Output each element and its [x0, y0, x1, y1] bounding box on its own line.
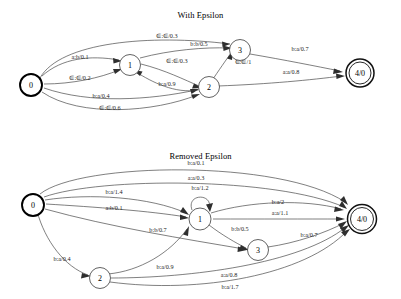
- node-label: 0: [31, 201, 35, 210]
- edge-label: ∈:∈/0.3: [166, 57, 187, 64]
- edge-label: ∈:∈/0.3: [156, 32, 177, 39]
- edge-label: b:b/0.5: [231, 225, 248, 232]
- edge-label: b:b/0.7: [149, 226, 166, 233]
- edge-2-4-aa: [218, 76, 342, 86]
- node-label: 3: [256, 246, 260, 255]
- node-label: 0: [29, 81, 33, 90]
- node-2[interactable]: 2: [199, 77, 220, 98]
- arrowhead-2-4-aa: [336, 74, 345, 80]
- arrowhead-3-4-ba: [333, 69, 343, 75]
- node-4-accept[interactable]: 4/0: [346, 59, 374, 87]
- edge-label: b:a/0.4: [92, 92, 109, 99]
- edge-label: a:a/1.1: [272, 209, 289, 216]
- figure-with-epsilon: With Epsilon: [0, 0, 401, 150]
- node-1[interactable]: 1: [189, 208, 211, 230]
- arrowhead-0-1-ab01: [180, 215, 189, 221]
- edge-label: b:a/0.7: [300, 231, 317, 238]
- arrowhead-1-4-aa11: [336, 217, 345, 222]
- node-3[interactable]: 3: [248, 240, 269, 261]
- edge-label: b:b/0.5: [190, 40, 207, 47]
- edge-label: ∈:∈/0.2: [69, 74, 90, 81]
- edge-label: b:a/0.4: [53, 255, 70, 262]
- node-label: 2: [98, 274, 102, 283]
- edge-label: b:a/1.2: [191, 184, 208, 191]
- automaton-graph-with-epsilon: ∈:∈/0.3 a:b/0.1 ∈:∈/0.2 b:a/0.4 ∈:∈/0.6 …: [0, 0, 401, 150]
- node-group: 0 1 2 3 4/0: [20, 40, 374, 98]
- automaton-graph-removed-epsilon: b:a/0.1 a:a/0.3 b:a/1.4 a:b/0.1 b:b/0.7 …: [0, 149, 401, 299]
- arrowhead-1-4-ba2: [334, 207, 344, 213]
- node-0[interactable]: 0: [22, 194, 44, 216]
- node-4-accept[interactable]: 4/0: [348, 205, 377, 234]
- edge-label: ∈:∈/0.6: [99, 104, 120, 111]
- edge-0-2-ba04: [37, 211, 88, 275]
- node-label: 4/0: [355, 69, 365, 78]
- edge-label: b:a/0.7: [291, 45, 308, 52]
- node-1[interactable]: 1: [120, 55, 141, 76]
- arrowhead-2-1-ba09: [183, 226, 189, 236]
- edge-label: a:a/0.8: [283, 68, 300, 75]
- edge-label: b:a/0.9: [156, 263, 173, 270]
- edge-2-1-ba09: [108, 229, 187, 274]
- node-label: 2: [207, 83, 211, 92]
- edge-label: a:b/0.1: [71, 53, 88, 60]
- node-label: 1: [128, 61, 132, 70]
- edge-label: b:a/0.9: [158, 80, 175, 87]
- edge-label: a:b/0.1: [105, 204, 122, 211]
- node-2[interactable]: 2: [90, 268, 111, 289]
- edge-label: a:a/0.3: [188, 174, 205, 181]
- edge-label: b:a/0.1: [187, 159, 204, 166]
- node-label: 1: [198, 215, 202, 224]
- edge-label: b:a/2: [272, 198, 284, 205]
- edge-0-2-ba: [44, 88, 196, 99]
- edge-label: b:a/1.4: [105, 188, 122, 195]
- node-label: 4/0: [357, 215, 367, 224]
- arrowhead-0-2-eps: [191, 94, 200, 99]
- node-3[interactable]: 3: [230, 40, 251, 61]
- edge-label: a:a/0.8: [221, 271, 238, 278]
- edge-label: b:a/1.7: [221, 283, 238, 290]
- edge-label-group: ∈:∈/0.3 a:b/0.1 ∈:∈/0.2 b:a/0.4 ∈:∈/0.6 …: [69, 32, 308, 111]
- node-0[interactable]: 0: [20, 74, 42, 96]
- node-label: 3: [238, 46, 242, 55]
- figure-removed-epsilon: Removed Epsilon: [0, 149, 401, 299]
- arrowhead-0-1-ba14: [180, 207, 189, 215]
